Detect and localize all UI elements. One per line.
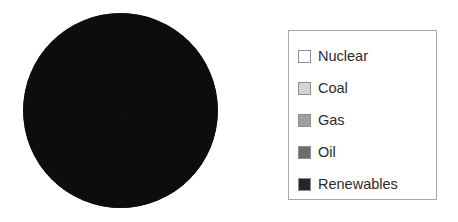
legend-item-coal[interactable]: Coal bbox=[298, 72, 436, 104]
square-swatch-icon bbox=[298, 114, 311, 127]
square-swatch-icon bbox=[298, 178, 311, 191]
legend-box: Nuclear Coal Gas Oil Renewables bbox=[288, 30, 437, 200]
legend-item-gas[interactable]: Gas bbox=[298, 104, 436, 136]
legend-item-label: Oil bbox=[318, 145, 336, 160]
legend-item-label: Coal bbox=[318, 81, 348, 96]
pie-slices-group bbox=[23, 13, 218, 208]
pie-chart-circle bbox=[23, 13, 218, 208]
legend-item-label: Renewables bbox=[318, 177, 398, 192]
legend-item-label: Nuclear bbox=[318, 49, 368, 64]
legend-item-label: Gas bbox=[318, 113, 345, 128]
square-swatch-icon bbox=[298, 82, 311, 95]
pie-chart-plot-area bbox=[0, 0, 270, 222]
pie-chart-figure: Nuclear Coal Gas Oil Renewables bbox=[0, 0, 458, 222]
legend-item-oil[interactable]: Oil bbox=[298, 136, 436, 168]
square-swatch-icon bbox=[298, 146, 311, 159]
legend-item-renewables[interactable]: Renewables bbox=[298, 168, 436, 200]
square-swatch-icon bbox=[298, 50, 311, 63]
legend-item-nuclear[interactable]: Nuclear bbox=[298, 40, 436, 72]
